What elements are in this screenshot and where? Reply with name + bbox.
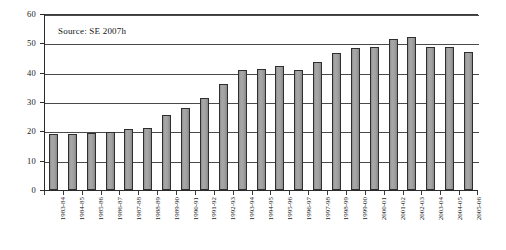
x-tick-label: 1994-95 xyxy=(268,197,275,245)
x-tick-mark xyxy=(138,191,139,195)
x-tick-mark xyxy=(421,191,422,195)
x-tick-label: 1989-90 xyxy=(173,197,180,245)
x-tick-mark xyxy=(252,191,253,195)
y-tick-label-20: 20 xyxy=(14,127,36,136)
x-tick-label: 2003-04 xyxy=(437,197,444,245)
x-tick-label: 1983-84 xyxy=(60,197,67,245)
x-tick-mark xyxy=(308,191,309,195)
x-tick-mark xyxy=(289,191,290,195)
bar xyxy=(257,69,266,190)
bar xyxy=(238,70,247,190)
bar xyxy=(389,39,398,190)
bar xyxy=(275,66,284,190)
x-tick-label: 1997-98 xyxy=(324,197,331,245)
x-tick-label: 1990-91 xyxy=(192,197,199,245)
x-tick-label: 1996-97 xyxy=(305,197,312,245)
y-tick-label-40: 40 xyxy=(14,69,36,78)
bar xyxy=(106,132,115,190)
y-tick-label-30: 30 xyxy=(14,98,36,107)
bar xyxy=(407,37,416,190)
x-tick-label: 1998-99 xyxy=(343,197,350,245)
bar xyxy=(294,70,303,190)
bar xyxy=(426,47,435,190)
x-tick-label: 1987-88 xyxy=(135,197,142,245)
x-tick-mark xyxy=(195,191,196,195)
x-axis-labels: 1983-841984-851985-861986-871987-881988-… xyxy=(44,191,478,249)
bar xyxy=(87,133,96,190)
x-tick-label: 2001-02 xyxy=(400,197,407,245)
x-tick-mark xyxy=(477,191,478,195)
y-tick-label-60: 60 xyxy=(14,10,36,19)
bar xyxy=(351,48,360,190)
source-note: Source: SE 2007h xyxy=(58,26,126,37)
bar xyxy=(162,115,171,190)
x-tick-label: 1999-00 xyxy=(362,197,369,245)
x-tick-mark xyxy=(365,191,366,195)
bar xyxy=(464,52,473,190)
bar xyxy=(143,128,152,190)
x-tick-label: 1985-86 xyxy=(98,197,105,245)
bar xyxy=(219,84,228,190)
bar-series xyxy=(44,14,478,190)
bar xyxy=(200,98,209,190)
bar xyxy=(445,47,454,190)
x-tick-mark xyxy=(176,191,177,195)
x-tick-mark xyxy=(44,191,45,195)
x-tick-label: 2005-06 xyxy=(475,197,482,245)
bar xyxy=(332,53,341,190)
x-tick-label: 1995-96 xyxy=(286,197,293,245)
x-tick-label: 1986-87 xyxy=(117,197,124,245)
x-tick-mark xyxy=(101,191,102,195)
x-tick-label: 1993-94 xyxy=(249,197,256,245)
bar xyxy=(49,134,58,190)
bar xyxy=(68,134,77,190)
x-tick-mark xyxy=(384,191,385,195)
bar xyxy=(181,108,190,190)
x-tick-label: 1988-89 xyxy=(154,197,161,245)
x-tick-mark xyxy=(440,191,441,195)
x-tick-mark xyxy=(346,191,347,195)
x-tick-mark xyxy=(157,191,158,195)
x-tick-label: 2000-01 xyxy=(381,197,388,245)
x-tick-label: 1991-92 xyxy=(211,197,218,245)
bar xyxy=(124,129,133,190)
x-tick-label: 1992-93 xyxy=(230,197,237,245)
y-tick-label-10: 10 xyxy=(14,157,36,166)
x-tick-label: 2002-03 xyxy=(418,197,425,245)
x-tick-label: 1984-85 xyxy=(79,197,86,245)
x-tick-mark xyxy=(327,191,328,195)
x-tick-mark xyxy=(459,191,460,195)
y-tick-label-50: 50 xyxy=(14,39,36,48)
x-tick-mark xyxy=(214,191,215,195)
x-tick-mark xyxy=(233,191,234,195)
x-tick-mark xyxy=(63,191,64,195)
bar xyxy=(370,47,379,190)
x-tick-mark xyxy=(82,191,83,195)
x-tick-label: 2004-05 xyxy=(456,197,463,245)
x-tick-mark xyxy=(119,191,120,195)
y-tick-label-0: 0 xyxy=(14,186,36,195)
x-tick-mark xyxy=(403,191,404,195)
bar-chart: 0102030405060 1983-841984-851985-861986-… xyxy=(0,0,506,250)
x-tick-mark xyxy=(270,191,271,195)
bar xyxy=(313,62,322,190)
